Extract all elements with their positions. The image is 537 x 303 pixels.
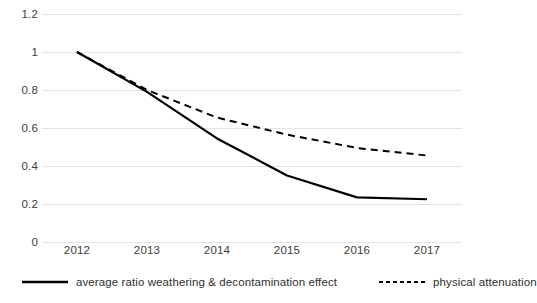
y-axis: 00.20.40.60.811.2 xyxy=(0,14,38,242)
y-axis-tick-label: 0.6 xyxy=(21,122,38,134)
y-axis-tick-label: 0.8 xyxy=(21,84,38,96)
y-axis-tick-label: 0 xyxy=(31,236,38,248)
y-axis-tick-label: 0.4 xyxy=(21,160,38,172)
legend-entry-average-ratio: average ratio weathering & decontaminati… xyxy=(22,276,337,288)
x-axis-tick-label: 2015 xyxy=(274,244,300,256)
y-axis-tick-label: 0.2 xyxy=(21,198,38,210)
x-axis-tick-label: 2016 xyxy=(344,244,370,256)
y-axis-tick-label: 1.2 xyxy=(21,8,38,20)
legend-entry-physical-attenuation: physical attenuation xyxy=(379,276,537,288)
x-axis-tick-label: 2013 xyxy=(134,244,160,256)
x-axis: 201220132014201520162017 xyxy=(42,244,462,266)
legend-label-physical-attenuation: physical attenuation xyxy=(433,276,537,288)
chart-legend: average ratio weathering & decontaminati… xyxy=(0,270,476,294)
x-axis-tick-label: 2012 xyxy=(64,244,90,256)
series-layer xyxy=(42,14,462,242)
x-axis-tick-label: 2014 xyxy=(204,244,230,256)
series-line-physical-attenuation xyxy=(77,52,427,156)
plot-area xyxy=(42,14,462,242)
x-axis-tick-label: 2017 xyxy=(414,244,440,256)
gridline xyxy=(42,242,462,243)
legend-swatch-solid-icon xyxy=(22,277,68,287)
series-line-average-ratio xyxy=(77,52,427,199)
legend-swatch-dashed-icon xyxy=(379,277,425,287)
y-axis-tick-label: 1 xyxy=(31,46,38,58)
legend-label-average-ratio: average ratio weathering & decontaminati… xyxy=(76,276,337,288)
